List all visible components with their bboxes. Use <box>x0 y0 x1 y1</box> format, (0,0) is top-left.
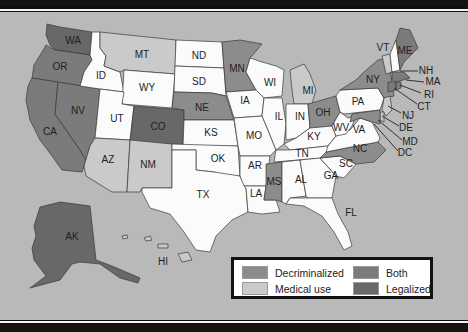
label-ma: MA <box>426 76 441 87</box>
label-nh: NH <box>419 65 433 76</box>
label-mo: MO <box>246 130 262 141</box>
label-ut: UT <box>110 113 123 124</box>
label-mt: MT <box>135 49 149 60</box>
label-tn: TN <box>295 148 308 159</box>
label-ga: GA <box>324 170 339 181</box>
label-vt: VT <box>377 42 390 53</box>
label-wa: WA <box>65 35 81 46</box>
swatch-decriminalized <box>242 266 268 279</box>
label-pa: PA <box>352 96 365 107</box>
label-id: ID <box>96 70 106 81</box>
label-oh: OH <box>316 107 331 118</box>
label-ri: RI <box>424 89 434 100</box>
label-mi: MI <box>302 85 313 96</box>
legend-item-legalized: Legalized <box>353 282 431 295</box>
state-ak[interactable] <box>30 202 140 288</box>
label-ak: AK <box>65 231 79 242</box>
label-al: AL <box>295 174 308 185</box>
label-la: LA <box>250 188 263 199</box>
label-sc: SC <box>339 158 353 169</box>
label-il: IL <box>275 111 284 122</box>
legend-item-medical: Medical use <box>242 282 331 295</box>
label-sd: SD <box>192 76 206 87</box>
label-nd: ND <box>192 50 206 61</box>
label-md: MD <box>402 136 418 147</box>
label-nj: NJ <box>402 110 414 121</box>
leader-ri <box>400 85 421 93</box>
state-ri[interactable] <box>396 82 401 90</box>
label-ca: CA <box>43 126 57 137</box>
legend-label: Medical use <box>275 283 331 295</box>
label-me: ME <box>398 45 413 56</box>
state-hi-island[interactable] <box>122 235 128 239</box>
label-in: IN <box>295 111 305 122</box>
legend-item-both: Both <box>353 266 408 279</box>
label-nm: NM <box>140 159 156 170</box>
label-nv: NV <box>71 105 85 116</box>
swatch-both <box>353 266 379 279</box>
label-hi: HI <box>158 256 168 267</box>
legend-item-decriminalized: Decriminalized <box>242 266 344 279</box>
label-fl: FL <box>345 207 357 218</box>
label-ms: MS <box>267 176 282 187</box>
label-wi: WI <box>264 77 276 88</box>
label-co: CO <box>151 121 166 132</box>
label-ok: OK <box>211 153 226 164</box>
state-az[interactable] <box>84 138 130 192</box>
label-dc: DC <box>398 147 412 158</box>
label-ny: NY <box>366 74 380 85</box>
leader-de <box>382 116 399 126</box>
label-or: OR <box>53 61 68 72</box>
state-hi-island[interactable] <box>158 244 168 248</box>
state-hi[interactable] <box>178 252 192 262</box>
label-ia: IA <box>240 95 250 106</box>
label-ct: CT <box>417 101 430 112</box>
swatch-medical <box>242 282 268 295</box>
label-mn: MN <box>229 63 245 74</box>
label-nc: NC <box>353 143 367 154</box>
label-az: AZ <box>102 154 115 165</box>
legend-label: Both <box>386 267 408 279</box>
label-ne: NE <box>195 102 209 113</box>
label-ks: KS <box>204 127 218 138</box>
label-va: VA <box>353 124 366 135</box>
legend-label: Decriminalized <box>275 267 344 279</box>
legend: Decriminalized Medical use Both Legalize… <box>231 257 433 299</box>
label-ky: KY <box>307 131 321 142</box>
swatch-legalized <box>353 282 379 295</box>
state-ct[interactable] <box>388 82 396 92</box>
state-hi-island[interactable] <box>144 236 152 241</box>
legend-label: Legalized <box>386 283 431 295</box>
label-ar: AR <box>248 160 262 171</box>
leader-ma <box>406 80 424 82</box>
state-fl[interactable] <box>286 198 352 250</box>
map-frame: WA OR CA NV ID MT WY UT CO AZ NM ND SD N… <box>0 0 468 332</box>
label-wv: WV <box>333 122 349 133</box>
label-de: DE <box>399 122 413 133</box>
label-wy: WY <box>139 82 155 93</box>
label-tx: TX <box>197 189 210 200</box>
